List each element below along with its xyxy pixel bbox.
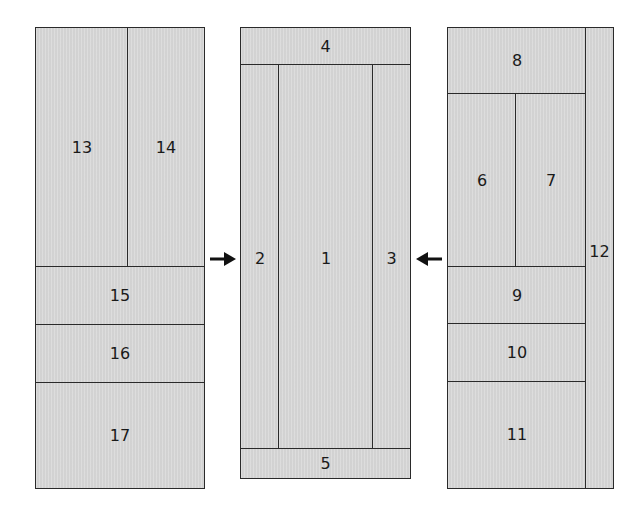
piece-5: 5 <box>240 448 411 479</box>
piece-17: 17 <box>35 382 205 489</box>
piece-label: 14 <box>156 140 176 156</box>
piece-label: 8 <box>512 53 522 69</box>
piece-label: 3 <box>386 251 396 267</box>
arrow-right-icon <box>210 252 236 266</box>
piece-1: 1 <box>278 64 374 450</box>
piece-label: 6 <box>477 173 487 189</box>
piece-label: 10 <box>507 345 527 361</box>
piece-11: 11 <box>447 381 587 489</box>
piece-7: 7 <box>515 93 587 268</box>
piece-16: 16 <box>35 324 205 384</box>
piece-label: 17 <box>110 428 130 444</box>
piece-15: 15 <box>35 266 205 326</box>
piece-10: 10 <box>447 323 587 383</box>
piece-2: 2 <box>240 64 280 450</box>
piece-label: 13 <box>72 140 92 156</box>
piece-label: 11 <box>507 427 527 443</box>
piece-label: 9 <box>512 288 522 304</box>
piece-label: 12 <box>589 244 609 260</box>
piece-6: 6 <box>447 93 517 268</box>
piece-4: 4 <box>240 27 411 66</box>
piece-12: 12 <box>585 27 614 489</box>
piece-label: 15 <box>110 288 130 304</box>
piece-9: 9 <box>447 266 587 325</box>
piece-label: 2 <box>255 251 265 267</box>
arrow-left-icon <box>416 252 442 266</box>
piece-label: 1 <box>321 251 331 267</box>
piece-13: 13 <box>35 27 129 268</box>
piece-label: 7 <box>546 173 556 189</box>
piece-8: 8 <box>447 27 587 95</box>
piece-3: 3 <box>372 64 411 450</box>
piece-14: 14 <box>127 27 205 268</box>
piece-label: 16 <box>110 346 130 362</box>
piece-label: 4 <box>320 39 330 55</box>
piece-label: 5 <box>320 456 330 472</box>
